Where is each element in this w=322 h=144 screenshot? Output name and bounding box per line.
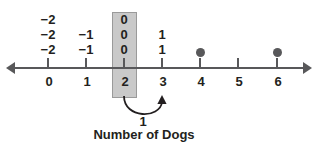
axis-tick-label-6: 6 [266, 74, 290, 89]
axis-tick-label-5: 5 [227, 74, 251, 89]
stack-value: 0 [109, 27, 139, 42]
stack-value: −1 [71, 27, 101, 42]
axis-tick-label-2: 2 [113, 74, 137, 89]
stack-value: 0 [109, 42, 139, 57]
number-line-figure: −2 −2 −2 −1 −1 0 0 0 1 1 0 1 2 3 4 5 6 1… [0, 0, 322, 144]
value-stack-3: 1 1 [147, 27, 177, 57]
stack-value: −2 [33, 12, 63, 27]
axis-arrow-left-icon [6, 62, 15, 74]
stack-value: −1 [71, 42, 101, 57]
number-line-axis [14, 67, 306, 69]
axis-tick-label-0: 0 [37, 74, 61, 89]
value-stack-0: −2 −2 −2 [33, 12, 63, 57]
value-stack-2: 0 0 0 [109, 12, 139, 57]
axis-tick-label-1: 1 [75, 74, 99, 89]
axis-tick-2 [123, 58, 125, 69]
axis-tick-5 [237, 58, 239, 69]
data-point-dot-6 [273, 48, 282, 57]
axis-tick-6 [276, 58, 278, 69]
value-stack-1: −1 −1 [71, 27, 101, 57]
axis-tick-3 [161, 58, 163, 69]
stack-value: −2 [33, 27, 63, 42]
stack-value: 0 [109, 12, 139, 27]
stack-value: 1 [147, 42, 177, 57]
data-point-dot-4 [196, 48, 205, 57]
axis-tick-4 [199, 58, 201, 69]
axis-tick-label-3: 3 [151, 74, 175, 89]
axis-tick-label-4: 4 [189, 74, 213, 89]
axis-tick-1 [85, 58, 87, 69]
stack-value: −2 [33, 42, 63, 57]
stack-value: 1 [147, 27, 177, 42]
axis-arrow-right-icon [303, 62, 312, 74]
axis-tick-0 [47, 58, 49, 69]
axis-title: Number of Dogs [62, 127, 226, 142]
